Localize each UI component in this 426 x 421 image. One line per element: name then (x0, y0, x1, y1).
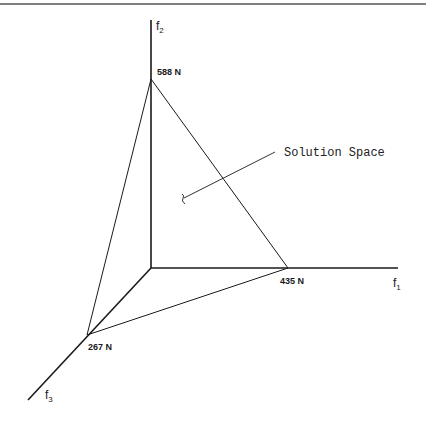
f2-intercept-label: 588 N (157, 67, 181, 77)
f3-intercept-label: 267 N (88, 342, 112, 352)
edge-f1-f3 (87, 268, 288, 335)
f1-intercept-label: 435 N (280, 276, 304, 286)
solution-space-label: Solution Space (284, 146, 385, 160)
leader-tick-mark (182, 194, 185, 204)
f3-axis-label: f3 (45, 388, 53, 404)
solution-space-diagram: f2 f1 f3 588 N 435 N 267 N Solution Spac… (0, 0, 426, 421)
f2-axis-label: f2 (156, 19, 164, 35)
edge-f2-f3 (87, 79, 151, 335)
f1-axis-label: f1 (393, 276, 401, 292)
annotation-leader-line (184, 152, 275, 198)
edge-f2-f1 (151, 79, 288, 268)
